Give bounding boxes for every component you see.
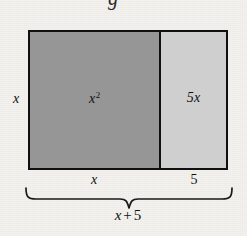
total-width-label: x+5 [78,207,178,224]
region-x-squared-exponent: 2 [96,90,101,100]
height-label-x: x [8,91,24,107]
region-x-squared-base: x [89,91,95,106]
area-rectangle: x2 5x [28,30,228,170]
region-x-squared-label: x2 [89,89,100,107]
region-5x-label: 5x [187,90,201,106]
region-x-squared: x2 [30,32,161,168]
area-model-figure: g x2 5x x x 5 x+5 [0,0,247,236]
total-constant: 5 [134,207,142,223]
cutoff-text-glyph: g [108,0,118,10]
region-5x: 5x [161,32,226,168]
total-operator: + [121,207,133,223]
